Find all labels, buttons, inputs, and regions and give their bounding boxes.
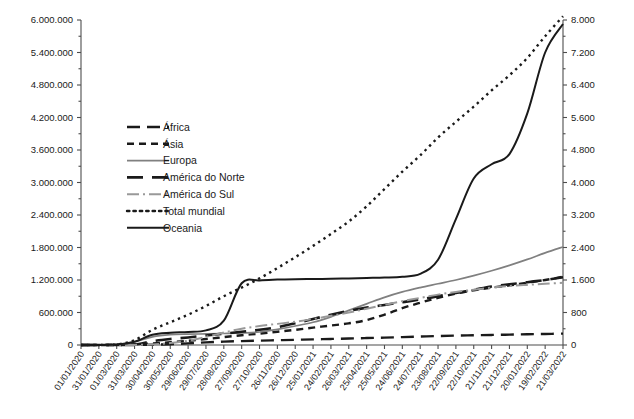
- y-axis-right-tick-label: 2.400: [571, 242, 595, 253]
- y-axis-left-tick-label: 3.000.000: [31, 177, 73, 188]
- y-axis-right: 08001.6002.4003.2004.0004.8005.6006.4007…: [563, 14, 595, 350]
- legend-label: Ásia: [163, 138, 184, 150]
- y-axis-left-tick-label: 2.400.000: [31, 209, 73, 220]
- y-axis-left-tick-label: 4.800.000: [31, 79, 73, 90]
- y-axis-right-tick-label: 3.200: [571, 209, 595, 220]
- y-axis-right-tick-label: 8.000: [571, 14, 595, 25]
- y-axis-left-tick-label: 600.000: [39, 307, 73, 318]
- y-axis-left-tick-label: 3.600.000: [31, 144, 73, 155]
- legend-label: Total mundial: [163, 205, 225, 217]
- legend-label: América do Norte: [163, 171, 245, 183]
- chart-legend: ÁfricaÁsiaEuropaAmérica do NorteAmérica …: [127, 121, 245, 234]
- y-axis-right-tick-label: 5.600: [571, 112, 595, 123]
- y-axis-right-tick-label: 7.200: [571, 47, 595, 58]
- legend-label: Oceania: [163, 222, 202, 234]
- y-axis-right-tick-label: 4.800: [571, 144, 595, 155]
- y-axis-left-tick-label: 0: [68, 339, 73, 350]
- series-line: [81, 16, 563, 345]
- x-axis: 01/01/202031/01/202001/03/202031/03/2020…: [52, 345, 568, 392]
- legend-label: Europa: [163, 154, 197, 166]
- y-axis-right-tick-label: 0: [571, 339, 576, 350]
- y-axis-right-tick-label: 4.000: [571, 177, 595, 188]
- chart-canvas: 0600.0001.200.0001.800.0002.400.0003.000…: [0, 0, 634, 419]
- legend-label: África: [163, 121, 190, 133]
- y-axis-right-tick-label: 1.600: [571, 274, 595, 285]
- series-line: [81, 24, 563, 345]
- legend-label: América do Sul: [163, 188, 234, 200]
- y-axis-left-tick-label: 4.200.000: [31, 112, 73, 123]
- series-lines: [81, 16, 563, 345]
- y-axis-left-tick-label: 5.400.000: [31, 47, 73, 58]
- y-axis-left-tick-label: 1.200.000: [31, 274, 73, 285]
- y-axis-left-tick-label: 1.800.000: [31, 242, 73, 253]
- y-axis-right-tick-label: 800: [571, 307, 587, 318]
- y-axis-left-tick-label: 6.000.000: [31, 14, 73, 25]
- line-chart: 0600.0001.200.0001.800.0002.400.0003.000…: [0, 0, 634, 419]
- y-axis-right-tick-label: 6.400: [571, 79, 595, 90]
- series-line: [81, 247, 563, 345]
- y-axis-left: 0600.0001.200.0001.800.0002.400.0003.000…: [31, 14, 81, 350]
